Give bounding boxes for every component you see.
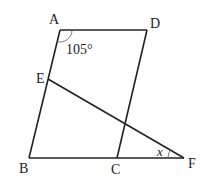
point-label-b: B bbox=[19, 161, 28, 176]
segment-ef bbox=[48, 79, 184, 158]
segment-ab bbox=[29, 30, 60, 158]
geometry-figure: A D E B C F 105° x bbox=[0, 0, 210, 186]
segment-dc bbox=[117, 30, 147, 158]
point-label-f: F bbox=[188, 156, 196, 171]
angle-f-arc bbox=[168, 150, 170, 158]
angle-a-label: 105° bbox=[66, 42, 93, 57]
point-label-d: D bbox=[150, 16, 160, 31]
point-label-a: A bbox=[49, 12, 60, 27]
angle-f-label: x bbox=[156, 144, 163, 159]
point-label-c: C bbox=[111, 162, 120, 177]
point-label-e: E bbox=[36, 71, 45, 86]
